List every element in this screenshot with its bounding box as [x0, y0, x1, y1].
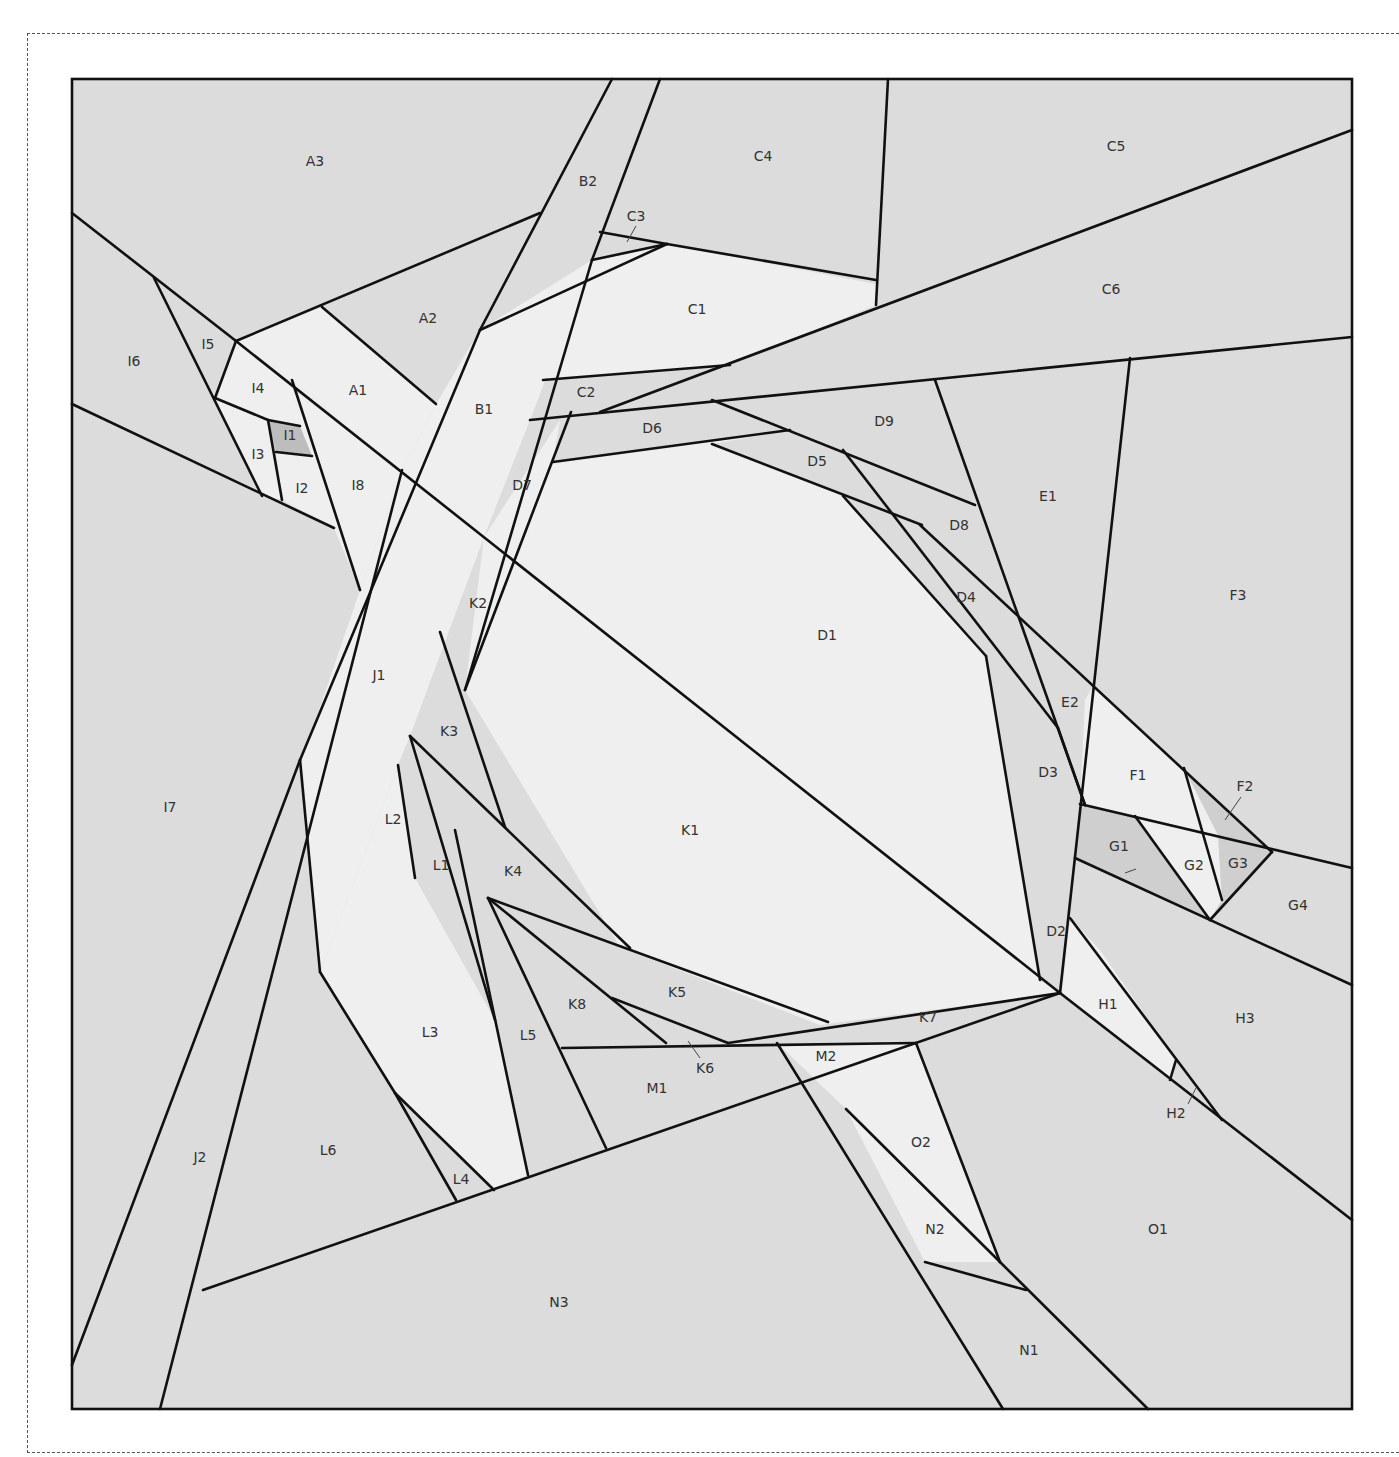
piece-label-i8: I8: [351, 477, 364, 493]
piece-label-a2: A2: [419, 310, 437, 326]
piece-label-l2: L2: [385, 811, 402, 827]
piece-label-c4: C4: [754, 148, 773, 164]
piece-label-c5: C5: [1107, 138, 1126, 154]
piece-label-l5: L5: [520, 1027, 537, 1043]
piece-label-h1: H1: [1098, 996, 1117, 1012]
piece-label-i5: I5: [201, 336, 214, 352]
piece-label-i1: I1: [283, 427, 296, 443]
piece-label-f3: F3: [1230, 587, 1247, 603]
piece-label-n3: N3: [549, 1294, 568, 1310]
piece-label-i3: I3: [251, 446, 264, 462]
piece-label-i7: I7: [163, 799, 176, 815]
piece-label-c1: C1: [688, 301, 707, 317]
pattern-diagram: A1A2A3B1B2C1C2C3C4C5C6D1D2D3D4D5D6D7D8D9…: [0, 0, 1399, 1457]
piece-label-d4: D4: [956, 589, 976, 605]
piece-label-k4: K4: [504, 863, 522, 879]
piece-label-l1: L1: [433, 857, 450, 873]
piece-label-d8: D8: [949, 517, 969, 533]
piece-label-b1: B1: [475, 401, 494, 417]
piece-label-k5: K5: [668, 984, 686, 1000]
piece-label-o1: O1: [1148, 1221, 1168, 1237]
piece-label-c3: C3: [627, 208, 646, 224]
piece-label-g3: G3: [1228, 855, 1248, 871]
piece-label-m2: M2: [816, 1048, 837, 1064]
piece-label-l6: L6: [320, 1142, 337, 1158]
piece-label-e1: E1: [1039, 488, 1057, 504]
piece-label-f2: F2: [1237, 778, 1254, 794]
piece-label-l4: L4: [453, 1171, 470, 1187]
piece-label-c2: C2: [577, 384, 596, 400]
piece-label-g1: G1: [1109, 838, 1129, 854]
piece-label-k6: K6: [696, 1060, 714, 1076]
piece-label-i4: I4: [251, 380, 264, 396]
piece-label-k1: K1: [681, 822, 699, 838]
piece-label-k2: K2: [469, 595, 487, 611]
piece-label-d1: D1: [817, 627, 837, 643]
piece-label-j2: J2: [192, 1149, 206, 1165]
piece-label-d2: D2: [1046, 923, 1066, 939]
piece-label-a1: A1: [349, 382, 367, 398]
piece-label-m1: M1: [647, 1080, 668, 1096]
piece-label-d3: D3: [1038, 764, 1058, 780]
piece-label-d7: D7: [512, 477, 532, 493]
piece-label-g4: G4: [1288, 897, 1308, 913]
piece-label-c6: C6: [1102, 281, 1121, 297]
piece-label-n2: N2: [925, 1221, 944, 1237]
piece-label-n1: N1: [1019, 1342, 1038, 1358]
piece-label-d6: D6: [642, 420, 662, 436]
piece-label-d5: D5: [807, 453, 827, 469]
piece-label-h3: H3: [1235, 1010, 1254, 1026]
piece-label-k3: K3: [440, 723, 458, 739]
piece-label-f1: F1: [1130, 767, 1147, 783]
piece-label-i6: I6: [127, 353, 140, 369]
piece-label-k8: K8: [568, 996, 586, 1012]
piece-label-i2: I2: [295, 480, 308, 496]
piece-label-e2: E2: [1061, 694, 1079, 710]
piece-label-b2: B2: [579, 173, 598, 189]
piece-label-h2: H2: [1166, 1105, 1185, 1121]
piece-label-g2: G2: [1184, 857, 1204, 873]
piece-label-k7: K7: [919, 1009, 937, 1025]
piece-label-o2: O2: [911, 1134, 931, 1150]
piece-label-j1: J1: [371, 667, 385, 683]
piece-label-a3: A3: [306, 153, 324, 169]
piece-label-l3: L3: [422, 1024, 439, 1040]
piece-label-d9: D9: [874, 413, 894, 429]
